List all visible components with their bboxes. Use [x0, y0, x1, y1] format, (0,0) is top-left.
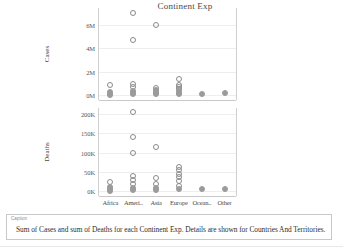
- data-point[interactable]: [153, 187, 159, 193]
- caption-box: Caption Sum of Cases and sum of Deaths f…: [6, 214, 332, 240]
- x-tick-label-europe: Europe: [170, 199, 188, 206]
- y-tick-label: 200K: [65, 110, 95, 117]
- grid-line: [99, 48, 236, 49]
- data-point[interactable]: [199, 186, 205, 192]
- x-tick-label-ameri: Ameri..: [124, 199, 143, 206]
- grid-line: [99, 95, 236, 96]
- data-point[interactable]: [153, 22, 159, 28]
- data-point[interactable]: [130, 187, 136, 193]
- data-point[interactable]: [199, 91, 205, 97]
- y-tick-label: 0M: [65, 92, 95, 99]
- chart-title: Continent Exp: [130, 1, 240, 11]
- data-point[interactable]: [130, 10, 136, 16]
- bottom-divider: [0, 246, 343, 247]
- grid-line: [99, 172, 236, 173]
- data-point[interactable]: [176, 91, 182, 97]
- data-point[interactable]: [130, 37, 136, 43]
- y-axis-line: [98, 8, 99, 100]
- y-tick-label: 0K: [65, 188, 95, 195]
- data-point[interactable]: [153, 144, 159, 150]
- x-axis-line: [99, 100, 236, 101]
- x-axis-line: [99, 196, 236, 197]
- data-point[interactable]: [130, 91, 136, 97]
- grid-line: [99, 72, 236, 73]
- data-point[interactable]: [130, 134, 136, 140]
- grid-line: [99, 191, 236, 192]
- x-tick-label-africa: Africa: [103, 199, 119, 206]
- data-point[interactable]: [222, 186, 228, 192]
- data-point[interactable]: [107, 92, 113, 98]
- y-axis-title: Cases: [43, 46, 51, 62]
- plot-right-border: [236, 8, 237, 100]
- y-axis-line: [98, 108, 99, 196]
- y-tick-label: 2M: [65, 68, 95, 75]
- x-tick-label-ocean: Ocean..: [192, 199, 211, 206]
- data-point[interactable]: [107, 188, 113, 194]
- y-tick-label: 6M: [65, 21, 95, 28]
- x-tick-label-asia: Asia: [150, 199, 161, 206]
- data-point[interactable]: [153, 91, 159, 97]
- y-tick-label: 100K: [65, 149, 95, 156]
- data-point[interactable]: [107, 82, 113, 88]
- grid-line: [99, 114, 236, 115]
- grid-line: [99, 153, 236, 154]
- data-point[interactable]: [176, 186, 182, 192]
- caption-label: Caption: [11, 216, 27, 221]
- y-tick-label: 50K: [65, 169, 95, 176]
- x-tick-label-other: Other: [218, 199, 232, 206]
- data-point[interactable]: [222, 90, 228, 96]
- grid-line: [99, 25, 236, 26]
- grid-line: [99, 133, 236, 134]
- caption-text: Sum of Cases and sum of Deaths for each …: [16, 225, 325, 234]
- y-tick-label: 150K: [65, 130, 95, 137]
- data-point[interactable]: [130, 109, 136, 115]
- data-point[interactable]: [130, 150, 136, 156]
- y-tick-label: 4M: [65, 45, 95, 52]
- viz-root: Continent Exp 0M2M4M6MCases 0K50K100K150…: [0, 0, 343, 252]
- plot-right-border: [236, 108, 237, 196]
- y-axis-title: Deaths: [43, 142, 51, 161]
